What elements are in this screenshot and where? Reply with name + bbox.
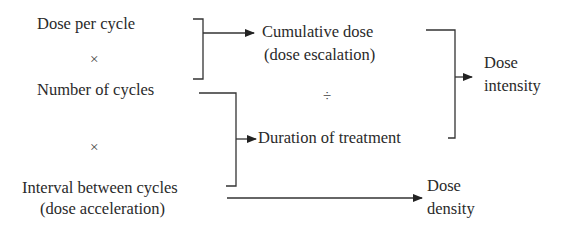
bracket-duration [199,93,236,186]
dose-intensity-label-line2: intensity [484,76,541,96]
bracket-cumulative [193,19,203,79]
duration-of-treatment-label: Duration of treatment [258,128,401,148]
bracket-intensity [426,30,455,138]
interval-label: Interval between cycles [22,178,178,198]
dose-density-label-line1: Dose [427,176,461,196]
dose-acceleration-label: (dose acceleration) [40,199,165,219]
dose-escalation-label: (dose escalation) [264,45,375,65]
dose-density-label-line2: density [427,199,475,219]
divide-operator: ÷ [323,88,331,105]
multiply-operator-2: × [90,139,98,156]
cumulative-dose-label: Cumulative dose [262,22,373,42]
dose-per-cycle-label: Dose per cycle [37,14,135,34]
multiply-operator: × [90,51,98,68]
number-of-cycles-label: Number of cycles [37,80,154,100]
dose-intensity-label-line1: Dose [484,53,518,73]
